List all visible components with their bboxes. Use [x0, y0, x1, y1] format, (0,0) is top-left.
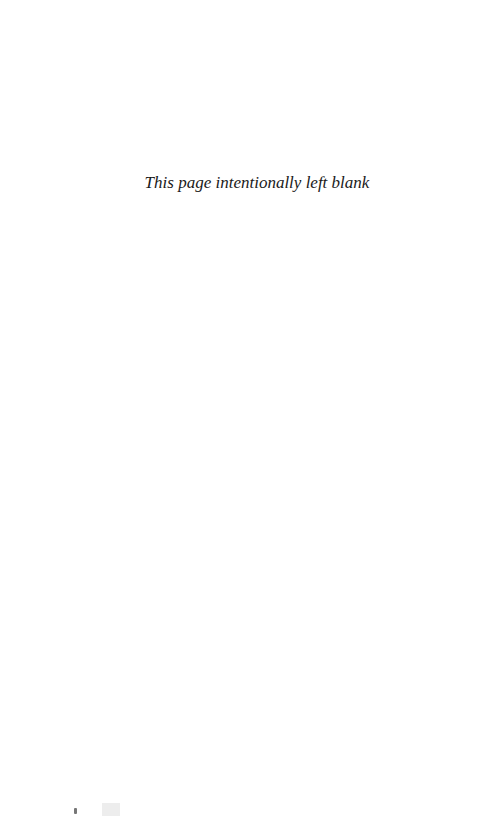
scan-artifact-icon: [74, 808, 77, 814]
document-page: This page intentionally left blank: [0, 0, 484, 816]
scan-smudge: [102, 803, 120, 816]
blank-page-notice: This page intentionally left blank: [0, 173, 484, 193]
